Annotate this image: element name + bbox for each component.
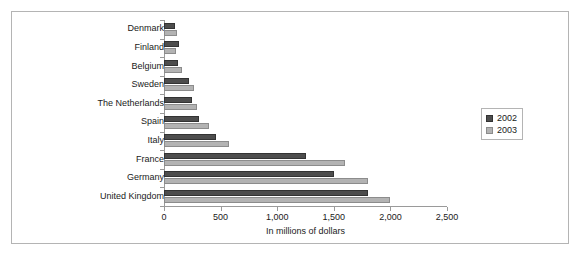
- bar-spain-2003: [164, 123, 209, 129]
- y-axis-tick: [160, 57, 164, 58]
- legend-label-2002: 2002: [497, 113, 517, 124]
- bar-finland-2003: [164, 48, 176, 54]
- y-axis-tick: [160, 187, 164, 188]
- category-label-germany: Germany: [24, 172, 164, 182]
- category-label-italy: Italy: [24, 135, 164, 145]
- legend-label-2003: 2003: [497, 125, 517, 136]
- bar-sweden-2003: [164, 85, 194, 91]
- category-label-spain: Spain: [24, 116, 164, 126]
- legend-swatch-2002: [486, 115, 493, 122]
- x-axis-tick: [334, 207, 335, 211]
- x-axis-tick: [390, 207, 391, 211]
- category-label-the-netherlands: The Netherlands: [24, 98, 164, 108]
- bar-sweden-2002: [164, 78, 189, 84]
- plot-area: DenmarkFinlandBelgiumSwedenThe Netherlan…: [12, 12, 570, 245]
- legend-item-2003: 2003: [486, 124, 517, 136]
- bar-the-netherlands-2002: [164, 97, 192, 103]
- category-label-sweden: Sweden: [24, 79, 164, 89]
- x-axis-title: In millions of dollars: [164, 226, 447, 236]
- y-axis-tick: [160, 20, 164, 21]
- bar-denmark-2003: [164, 30, 177, 36]
- y-axis-tick: [160, 169, 164, 170]
- bar-france-2003: [164, 160, 345, 166]
- x-axis-tick: [277, 207, 278, 211]
- x-axis-tick: [164, 207, 165, 211]
- bar-france-2002: [164, 153, 306, 159]
- bar-belgium-2003: [164, 67, 182, 73]
- y-axis-tick: [160, 76, 164, 77]
- x-axis-tick-label: 500: [196, 212, 246, 223]
- y-axis-tick: [160, 113, 164, 114]
- y-axis-tick: [160, 150, 164, 151]
- bar-united-kingdom-2002: [164, 190, 368, 196]
- category-axis-labels: DenmarkFinlandBelgiumSwedenThe Netherlan…: [18, 12, 164, 245]
- y-axis-tick: [160, 39, 164, 40]
- bar-belgium-2002: [164, 60, 178, 66]
- x-axis-tick-label: 1,000: [252, 212, 302, 223]
- y-axis-tick: [160, 94, 164, 95]
- bar-italy-2003: [164, 141, 229, 147]
- category-label-france: France: [24, 154, 164, 164]
- x-axis-tick-label: 1,500: [309, 212, 359, 223]
- x-axis-tick-label: 2,000: [365, 212, 415, 223]
- x-axis-tick-label: 2,500: [422, 212, 472, 223]
- category-label-finland: Finland: [24, 42, 164, 52]
- legend-item-2002: 2002: [486, 112, 517, 124]
- x-axis-line: [164, 206, 447, 207]
- bar-spain-2002: [164, 116, 199, 122]
- bar-denmark-2002: [164, 23, 175, 29]
- legend-swatch-2003: [486, 127, 493, 134]
- category-label-belgium: Belgium: [24, 61, 164, 71]
- bar-finland-2002: [164, 41, 179, 47]
- x-axis-tick: [447, 207, 448, 211]
- y-axis-tick: [160, 132, 164, 133]
- x-axis-tick-label: 0: [139, 212, 189, 223]
- bar-italy-2002: [164, 134, 216, 140]
- category-label-united-kingdom: United Kingdom: [24, 191, 164, 201]
- bar-the-netherlands-2003: [164, 104, 197, 110]
- bar-germany-2003: [164, 178, 368, 184]
- bar-germany-2002: [164, 171, 334, 177]
- chart-legend: 20022003: [481, 108, 523, 140]
- bar-united-kingdom-2003: [164, 197, 390, 203]
- x-axis-tick: [221, 207, 222, 211]
- category-label-denmark: Denmark: [24, 23, 164, 33]
- chart-frame: DenmarkFinlandBelgiumSwedenThe Netherlan…: [11, 11, 569, 244]
